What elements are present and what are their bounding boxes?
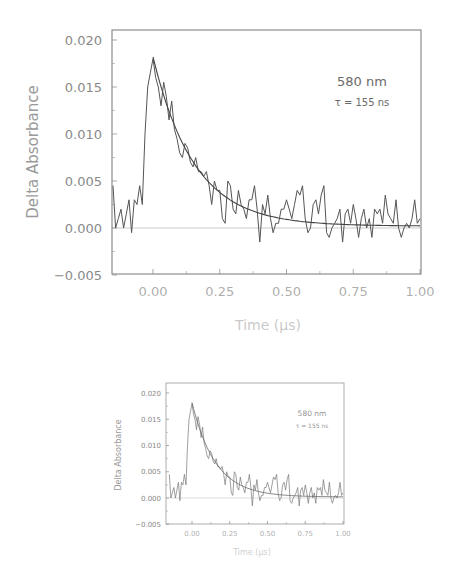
y-tick-label: 0.005 [141, 468, 161, 476]
x-tick-label: 0.75 [297, 530, 313, 538]
x-tick-label: 0.50 [272, 284, 301, 299]
y-tick-label: 0.015 [65, 80, 102, 95]
x-axis-title: Time (µs) [232, 548, 271, 557]
x-tick-label: 0.25 [205, 284, 234, 299]
y-tick-label: −0.005 [54, 268, 102, 283]
y-axis-ticks: 0.0200.0150.0100.0050.000−0.005 [54, 33, 117, 283]
plot-large: 0.0200.0150.0100.0050.000−0.005 0.000.25… [24, 30, 434, 333]
y-tick-label: 0.015 [141, 416, 161, 424]
y-axis-ticks: 0.0200.0150.0100.0050.000−0.005 [135, 390, 169, 529]
annotation-wavelength: 580 nm [298, 409, 327, 418]
y-tick-label: 0.010 [141, 442, 161, 450]
x-tick-label: 0.00 [184, 530, 200, 538]
annotation-wavelength: 580 nm [337, 74, 387, 89]
figure-canvas: 0.0200.0150.0100.0050.000−0.005 0.000.25… [0, 0, 463, 578]
y-tick-label: −0.005 [135, 521, 161, 529]
x-tick-label: 0.25 [222, 530, 238, 538]
plot-frame [112, 30, 421, 274]
y-tick-label: 0.010 [65, 127, 102, 142]
y-tick-label: 0.020 [65, 33, 102, 48]
x-axis-title: Time (µs) [234, 317, 301, 333]
y-axis-title: Delta Absorbance [114, 419, 123, 490]
x-axis-ticks: 0.000.250.500.751.00 [184, 521, 351, 538]
plot-small: 0.0200.0150.0100.0050.000−0.005 0.000.25… [114, 383, 351, 557]
annotation-tau: τ = 155 ns [296, 422, 329, 429]
y-tick-label: 0.020 [141, 390, 161, 398]
y-axis-title: Delta Absorbance [24, 85, 42, 218]
annotation-tau: τ = 155 ns [335, 97, 390, 108]
x-tick-label: 0.75 [339, 284, 368, 299]
y-tick-label: 0.000 [65, 221, 102, 236]
x-tick-label: 1.00 [406, 284, 435, 299]
x-tick-label: 0.50 [260, 530, 276, 538]
y-tick-label: 0.000 [141, 495, 161, 503]
x-tick-label: 1.00 [335, 530, 351, 538]
x-tick-label: 0.00 [139, 284, 168, 299]
y-tick-label: 0.005 [65, 174, 102, 189]
